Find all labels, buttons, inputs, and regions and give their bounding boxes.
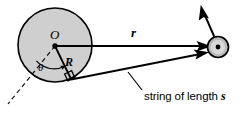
- ball-center-dot: [216, 45, 221, 50]
- position-vector-label-r: r: [131, 26, 136, 39]
- velocity-vector-arrowhead: [199, 5, 209, 21]
- string-line: [71, 54, 203, 80]
- center-point-dot: [52, 43, 57, 48]
- radius-label-R: R: [65, 56, 73, 68]
- physics-diagram: O R r θ string of length s: [0, 0, 243, 113]
- string-caption-text: string of length: [144, 90, 221, 102]
- string-caption-symbol: s: [221, 89, 226, 103]
- center-label-O: O: [50, 28, 59, 41]
- caption-leader-line: [128, 72, 142, 90]
- string-caption: string of length s: [144, 90, 226, 103]
- angle-label-theta: θ: [38, 62, 43, 73]
